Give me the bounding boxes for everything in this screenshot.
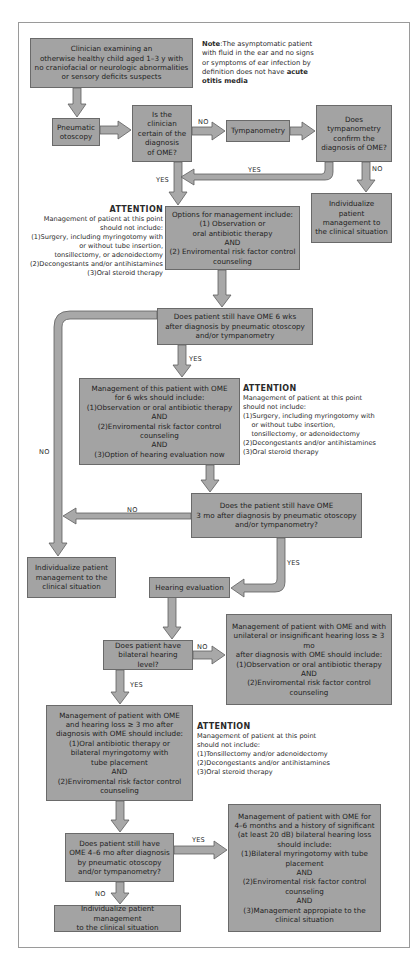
node-clinician-certain: Is the clinician certain of the diagnosi… (132, 105, 192, 162)
label-tymp-no: NO (372, 165, 383, 173)
label-certain-yes: YES (156, 176, 169, 184)
node-hearing-evaluation: Hearing evaluation (149, 577, 230, 598)
node-unilateral-management: Management of patient with OME and with … (226, 614, 392, 705)
label-six-wks-no: NO (39, 448, 50, 456)
attention-title: ATTENTION (197, 722, 342, 732)
node-individualize-1: Individualize patient management to the … (311, 193, 392, 243)
node-tympanometry-confirm: Does tympanometry confirm the diagnosis … (316, 105, 392, 162)
node-start-clinician-examining: Clinician examining an otherwise healthy… (30, 38, 193, 88)
node-tympanometry: Tympanometry (226, 120, 290, 142)
label-tymp-yes: YES (248, 166, 261, 174)
node-management-6-wks: Management of this patient with OME for … (79, 378, 240, 465)
attention-block-2: ATTENTION Management of patient at this … (243, 384, 383, 457)
node-ome-3-mo-question: Does the patient still have OME 3 mo aft… (191, 493, 362, 538)
attention-title: ATTENTION (24, 205, 163, 215)
node-individualize-2: Individualize patient management to the … (27, 557, 116, 598)
label-four-six-no: NO (95, 890, 106, 898)
node-hearing-loss-management: Management of patient with OME and heari… (46, 705, 193, 801)
label-three-mo-no: NO (127, 506, 138, 514)
node-ome-6-wks-question: Does patient still have OME 6 wks after … (157, 308, 313, 345)
label-bilateral-no: NO (197, 643, 208, 651)
node-bilateral-hearing-question: Does patient have bilateral hearing leve… (103, 640, 193, 670)
attention-block-1: ATTENTION Management of patient at this … (24, 205, 163, 278)
node-individualize-3: Individualize patient management to the … (54, 905, 181, 932)
attention-block-3: ATTENTION Management of patient at this … (197, 722, 342, 777)
label-six-wks-yes: YES (189, 355, 202, 363)
label-four-six-yes: YES (192, 836, 205, 844)
note-label: Note (202, 40, 220, 48)
note-asymptomatic: Note:The asymptomatic patient with fluid… (202, 40, 320, 86)
node-ome-4-6-mo-question: Does patient still have OME 4–6 mo after… (65, 833, 174, 882)
label-bilateral-yes: YES (130, 681, 143, 689)
label-certain-no: NO (198, 118, 209, 126)
node-final-management: Management of patient with OME for 4–6 m… (228, 804, 381, 932)
node-management-options: Options for management include: (1) Obse… (165, 206, 300, 270)
attention-title: ATTENTION (243, 384, 383, 394)
node-pneumatic-otoscopy: Pneumatic otoscopy (52, 118, 100, 146)
label-three-mo-yes: YES (287, 559, 300, 567)
